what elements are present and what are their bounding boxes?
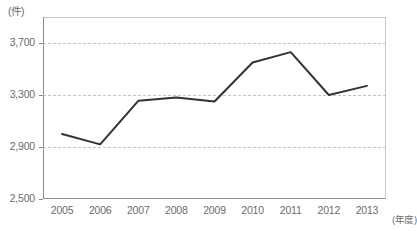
x-axis-tick-label: 2013 [348, 204, 386, 216]
x-axis-tick-label: 2010 [234, 204, 272, 216]
x-axis-unit-label: (年度) [392, 212, 417, 226]
x-axis-tick-label: 2009 [196, 204, 234, 216]
y-axis-tick-mark [39, 199, 43, 200]
x-axis-tick-label: 2012 [310, 204, 348, 216]
y-axis-tick-label: 3,700 [0, 36, 35, 48]
y-axis-tick-label: 3,300 [0, 88, 35, 100]
y-axis-tick-label: 2,900 [0, 140, 35, 152]
series-line [43, 17, 386, 199]
series-polyline [62, 52, 367, 144]
x-axis-tick-label: 2007 [119, 204, 157, 216]
x-axis-tick-label: 2011 [272, 204, 310, 216]
x-axis-tick-label: 2005 [43, 204, 81, 216]
plot-area [43, 17, 386, 199]
x-axis-tick-label: 2006 [81, 204, 119, 216]
x-axis-tick-label: 2008 [157, 204, 195, 216]
y-axis-unit-label: (件) [8, 3, 24, 18]
y-axis-tick-label: 2,500 [0, 192, 35, 204]
